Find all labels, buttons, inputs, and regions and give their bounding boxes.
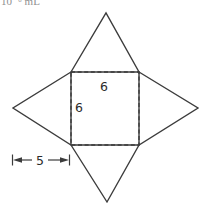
pyramid-net-figure: 10⁻⁶ mL 6 6 5	[0, 0, 208, 217]
pyramid-net-svg: 6 6 5	[0, 0, 208, 217]
triangle-face-right	[139, 72, 198, 145]
label-triangle-height: 5	[36, 153, 44, 168]
triangle-face-top	[71, 13, 139, 72]
label-square-top-side: 6	[100, 79, 108, 94]
left-arrowhead-icon	[13, 157, 22, 163]
right-arrowhead-icon	[60, 157, 69, 163]
label-square-left-side: 6	[75, 100, 83, 115]
triangle-face-bottom	[71, 145, 139, 202]
dimension-5-group: 5	[13, 153, 70, 168]
triangle-face-left	[13, 72, 71, 145]
